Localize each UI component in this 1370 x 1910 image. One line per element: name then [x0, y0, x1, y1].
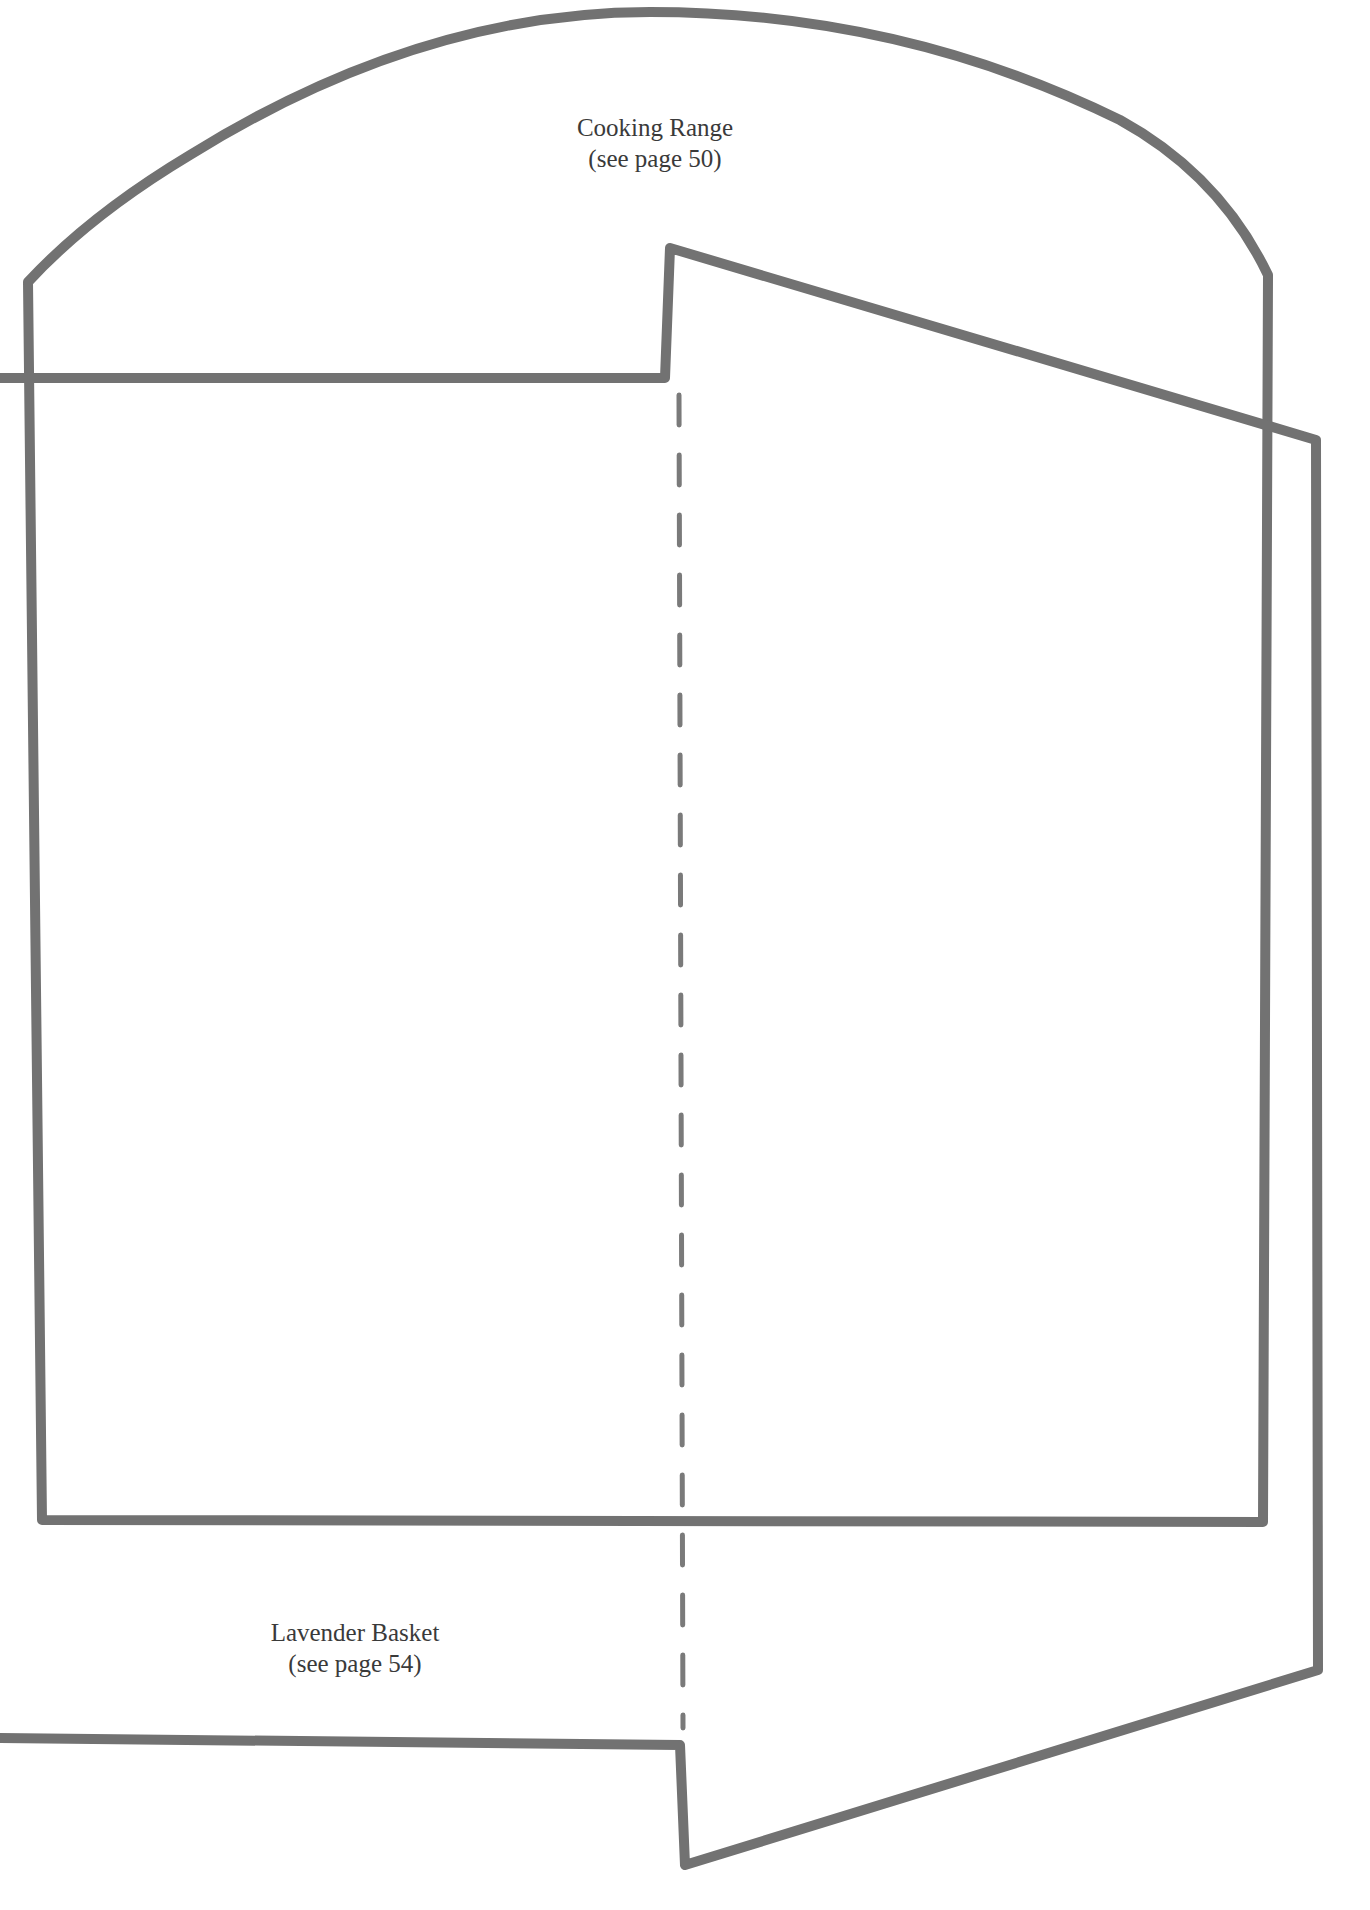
lavender-basket-label: Lavender Basket (see page 54): [245, 1617, 465, 1679]
cooking-range-reference: (see page 50): [540, 143, 770, 174]
cooking-range-label: Cooking Range (see page 50): [540, 112, 770, 174]
lavender-basket-title: Lavender Basket: [245, 1617, 465, 1648]
lavender-basket-outline: [0, 248, 1318, 1865]
template-diagram: [0, 0, 1370, 1910]
cooking-range-outline: [28, 12, 1268, 1522]
cooking-range-title: Cooking Range: [540, 112, 770, 143]
fold-line: [679, 395, 683, 1728]
lavender-basket-reference: (see page 54): [245, 1648, 465, 1679]
